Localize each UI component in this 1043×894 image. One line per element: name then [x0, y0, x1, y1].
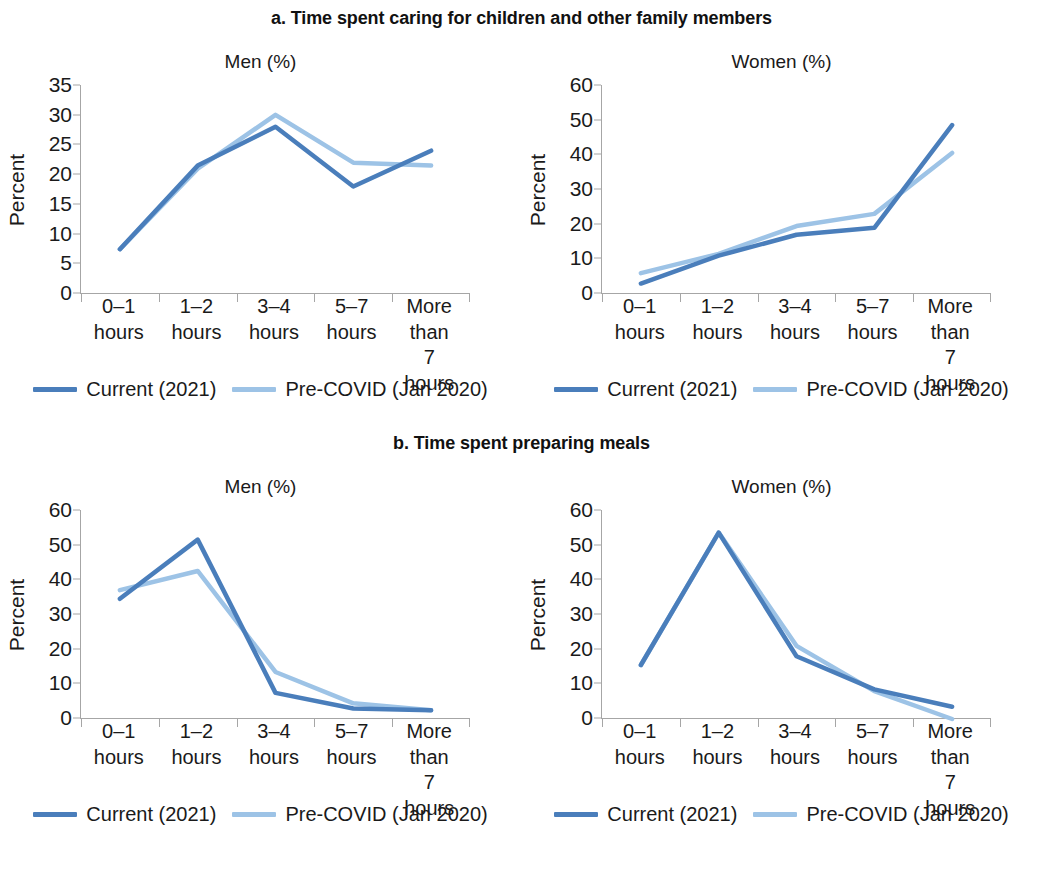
chart-a-women-yticks: 0102030405060 [555, 85, 601, 293]
legend-line-swatch [33, 387, 77, 392]
panel-a-charts: Men (%) Percent 05101520253035 0–1 hours… [0, 51, 1043, 401]
chart-a-men-xcats: 0–1 hours1–2 hours3–4 hours5–7 hoursMore… [80, 294, 468, 380]
y-tick-label: 0 [581, 706, 593, 730]
y-tick-label: 30 [570, 602, 593, 626]
chart-b-women-subtitle: Women (%) [521, 476, 1042, 498]
x-category-label: 0–1 hours [94, 294, 144, 345]
legend-line-swatch [554, 812, 598, 817]
y-tick-label: 10 [49, 222, 72, 246]
x-tick-mark [990, 293, 991, 302]
chart-b-men-xcats: 0–1 hours1–2 hours3–4 hours5–7 hoursMore… [80, 719, 468, 805]
y-tick-label: 10 [570, 246, 593, 270]
legend-label: Pre-COVID (Jan 2020) [285, 803, 487, 826]
y-tick-mark [594, 718, 601, 719]
y-tick-mark [73, 85, 80, 86]
chart-b-men-plotwrap: Percent 0102030405060 [0, 510, 521, 719]
x-category-label: 1–2 hours [171, 719, 221, 770]
y-tick-label: 20 [570, 637, 593, 661]
plot-lines [81, 85, 470, 294]
series-line [641, 153, 952, 273]
legend-item[interactable]: Current (2021) [33, 378, 216, 401]
chart-a-men: Men (%) Percent 05101520253035 0–1 hours… [0, 51, 521, 401]
y-tick-label: 20 [570, 212, 593, 236]
chart-a-women-plotwrap: Percent 0102030405060 [521, 85, 1042, 294]
y-tick-label: 40 [570, 142, 593, 166]
x-category-label: More than 7 hours [404, 294, 454, 396]
legend-item[interactable]: Current (2021) [33, 803, 216, 826]
chart-a-women-ylabel: Percent [521, 85, 555, 294]
y-tick-mark [594, 544, 601, 545]
x-category-label: 3–4 hours [770, 719, 820, 770]
y-tick-mark [73, 544, 80, 545]
y-tick-label: 60 [49, 498, 72, 522]
x-category-label: More than 7 hours [404, 719, 454, 821]
legend-label: Current (2021) [86, 803, 216, 826]
x-category-label: 5–7 hours [848, 294, 898, 345]
plot-lines [81, 510, 470, 719]
y-tick-mark [594, 85, 601, 86]
chart-b-women: Women (%) Percent 0102030405060 0–1 hour… [521, 476, 1042, 826]
legend-label: Current (2021) [607, 803, 737, 826]
legend-line-swatch [232, 812, 276, 817]
legend-item[interactable]: Current (2021) [554, 803, 737, 826]
y-tick-label: 0 [60, 706, 72, 730]
y-tick-mark [594, 223, 601, 224]
y-tick-label: 5 [60, 251, 72, 275]
y-tick-mark [73, 174, 80, 175]
y-tick-label: 10 [570, 671, 593, 695]
chart-b-men-ylabel: Percent [0, 510, 34, 719]
y-tick-mark [73, 510, 80, 511]
chart-a-men-subtitle: Men (%) [0, 51, 521, 73]
y-tick-mark [594, 683, 601, 684]
y-tick-label: 60 [570, 73, 593, 97]
x-category-label: 1–2 hours [692, 719, 742, 770]
y-tick-mark [594, 189, 601, 190]
chart-b-men-yticks: 0102030405060 [34, 510, 80, 718]
x-category-label: 1–2 hours [692, 294, 742, 345]
chart-a-women-xcats: 0–1 hours1–2 hours3–4 hours5–7 hoursMore… [601, 294, 989, 380]
y-tick-mark [73, 293, 80, 294]
legend-label: Pre-COVID (Jan 2020) [806, 803, 1008, 826]
x-category-label: 3–4 hours [770, 294, 820, 345]
y-tick-mark [73, 233, 80, 234]
series-line [120, 127, 431, 249]
y-tick-mark [594, 154, 601, 155]
y-tick-label: 50 [570, 108, 593, 132]
y-tick-mark [73, 144, 80, 145]
chart-a-men-yticks: 05101520253035 [34, 85, 80, 293]
y-tick-label: 35 [49, 73, 72, 97]
chart-b-men: Men (%) Percent 0102030405060 0–1 hours1… [0, 476, 521, 826]
x-category-label: 5–7 hours [848, 719, 898, 770]
chart-b-women-plot [601, 510, 990, 719]
chart-b-men-plot [80, 510, 469, 719]
x-category-label: 3–4 hours [249, 719, 299, 770]
y-tick-label: 0 [581, 281, 593, 305]
y-tick-label: 0 [60, 281, 72, 305]
y-tick-label: 15 [49, 192, 72, 216]
x-category-label: 0–1 hours [94, 719, 144, 770]
plot-lines [602, 510, 991, 719]
y-tick-mark [73, 614, 80, 615]
legend-line-swatch [753, 812, 797, 817]
series-line [641, 533, 952, 719]
chart-a-men-plotwrap: Percent 05101520253035 [0, 85, 521, 294]
chart-b-men-subtitle: Men (%) [0, 476, 521, 498]
x-category-label: 5–7 hours [327, 294, 377, 345]
legend-line-swatch [232, 387, 276, 392]
panel-a-title: a. Time spent caring for children and ot… [0, 8, 1043, 29]
figure-root: a. Time spent caring for children and ot… [0, 0, 1043, 894]
chart-b-women-ylabel: Percent [521, 510, 555, 719]
x-category-label: 5–7 hours [327, 719, 377, 770]
plot-lines [602, 85, 991, 294]
y-tick-mark [73, 579, 80, 580]
legend-item[interactable]: Current (2021) [554, 378, 737, 401]
legend-line-swatch [753, 387, 797, 392]
x-tick-mark [990, 718, 991, 727]
chart-a-women: Women (%) Percent 0102030405060 0–1 hour… [521, 51, 1042, 401]
x-category-label: More than 7 hours [925, 294, 975, 396]
x-tick-mark [469, 718, 470, 727]
chart-b-women-yticks: 0102030405060 [555, 510, 601, 718]
x-category-label: 0–1 hours [615, 719, 665, 770]
x-category-label: 3–4 hours [249, 294, 299, 345]
y-tick-mark [73, 263, 80, 264]
